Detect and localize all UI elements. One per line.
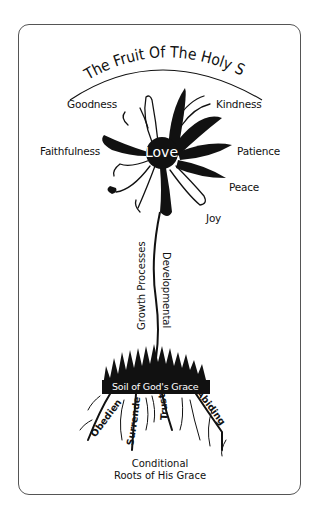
flower-stem: [154, 212, 160, 358]
root-label-trust: Trust: [156, 392, 170, 420]
fruit-label-faithfulness: Faithfulness: [40, 145, 100, 157]
footer-line-2: Roots of His Grace: [0, 470, 320, 482]
diagram-title: The Fruit Of The Holy Spirit: [0, 0, 248, 84]
center-fruit-love: Love: [145, 144, 178, 160]
stem-label-growth-processes: Growth Processes: [136, 241, 147, 330]
root-label-abiding: Abiding: [194, 387, 228, 427]
footer-line-1: Conditional: [0, 458, 320, 470]
fruit-label-peace: Peace: [229, 181, 259, 193]
flower-illustration: The Fruit Of The Holy Spirit: [0, 0, 320, 513]
soil-label: Soil of God's Grace: [112, 381, 198, 392]
fruit-label-patience: Patience: [237, 145, 280, 157]
fruit-label-kindness: Kindness: [216, 98, 262, 110]
grass: [103, 344, 208, 386]
stem-label-developmental: Developmental: [161, 252, 172, 328]
fruit-label-joy: Joy: [206, 212, 221, 224]
fruit-label-goodness: Goodness: [67, 98, 117, 110]
